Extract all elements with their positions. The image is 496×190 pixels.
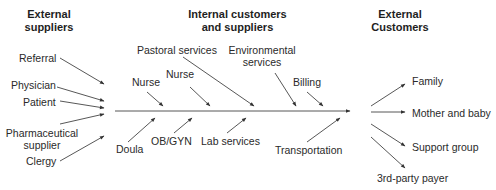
label-nurse-1: Nurse [132,76,160,88]
header-external-suppliers: External suppliers [14,8,84,34]
label-physician: Physician [11,79,56,91]
arrow-nurse-2 [190,87,210,106]
arrow-nurse-1 [147,92,163,106]
label-referral: Referral [19,52,56,64]
label-transportation: Transportation [275,144,342,156]
arrow-obgyn [174,118,192,133]
label-doula: Doula [116,143,143,155]
label-lab-services: Lab services [201,135,260,147]
header-external-customers: External Customers [360,8,440,34]
arrow-physician [57,87,104,101]
arrow-lab [227,118,246,133]
label-clergy: Clergy [26,155,56,167]
label-patient: Patient [23,96,56,108]
label-obgyn: OB/GYN [151,135,192,147]
label-pharmaceutical-supplier: Pharmaceutical supplier [4,127,80,151]
arrow-transportation [307,118,340,142]
label-pastoral-services: Pastoral services [137,44,217,56]
label-3rd-party-payer: 3rd-party payer [377,172,448,184]
label-billing: Billing [293,76,321,88]
arrow-family [371,84,405,106]
label-environmental-services: Environmental services [223,44,301,68]
arrow-support [371,124,405,146]
arrow-billing [307,92,323,106]
arrow-pharmaceutical [60,114,104,124]
arrow-payer [371,137,405,168]
label-support-group: Support group [412,141,479,153]
label-mother-and-baby: Mother and baby [412,107,491,119]
arrow-patient [60,101,104,108]
label-nurse-2: Nurse [166,68,194,80]
header-internal: Internal customers and suppliers [175,8,300,34]
arrow-referral [60,58,104,84]
label-family: Family [412,75,443,87]
